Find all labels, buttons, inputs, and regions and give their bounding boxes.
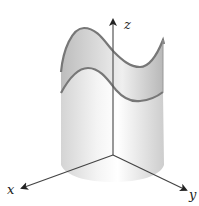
z-axis-label: z bbox=[123, 17, 131, 32]
figure-canvas: z x y bbox=[0, 0, 199, 206]
x-axis-label: x bbox=[7, 182, 15, 197]
y-axis-label: y bbox=[188, 187, 197, 202]
